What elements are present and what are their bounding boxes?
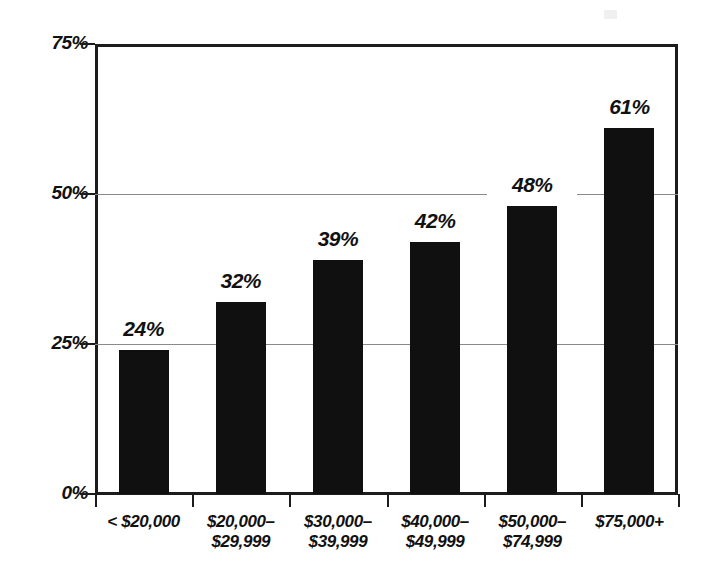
x-axis-category-label: < $20,000 (92, 512, 196, 532)
bar-40000-49999 (410, 242, 460, 494)
x-axis-category-label: $50,000– $74,999 (480, 512, 584, 552)
x-axis-tick (95, 494, 97, 507)
y-axis-tick-dash (80, 193, 95, 195)
y-axis-tick-dash (80, 493, 95, 495)
x-axis-tick (192, 494, 194, 507)
bar-value-label: 42% (390, 209, 480, 233)
x-axis-category-label: $40,000– $49,999 (383, 512, 487, 552)
y-axis-tick-label-25: 25% (26, 332, 88, 354)
bar-75000-plus (604, 128, 654, 494)
y-axis-tick-label-75: 75% (26, 32, 88, 54)
bar-value-label: 32% (196, 269, 286, 293)
bar-30000-39999 (313, 260, 363, 494)
x-axis-tick (387, 494, 389, 507)
bar-50000-74999 (507, 206, 557, 494)
x-axis-tick (289, 494, 291, 507)
x-axis-tick (484, 494, 486, 507)
bar-value-label: 48% (487, 173, 577, 197)
bar-lt-20000 (119, 350, 169, 494)
y-axis-tick-dash (80, 43, 95, 45)
x-axis-category-label: $75,000+ (577, 512, 681, 532)
x-axis-category-label: $30,000– $39,999 (286, 512, 390, 552)
bar-value-label: 61% (584, 95, 674, 119)
bar-chart-figure: 75% 50% 25% 0% 24% 32% 39% 42% 48% 61% <… (0, 0, 715, 587)
x-axis-tick (678, 494, 680, 507)
bar-value-label: 24% (99, 317, 189, 341)
x-axis-tick (581, 494, 583, 507)
bar-value-label: 39% (293, 227, 383, 251)
x-axis-category-label: $20,000– $29,999 (189, 512, 293, 552)
scan-artifact (604, 10, 617, 19)
y-axis-tick-label-0: 0% (26, 482, 88, 504)
y-axis-tick-dash (80, 343, 95, 345)
y-axis-tick-label-50: 50% (26, 182, 88, 204)
bar-20000-29999 (216, 302, 266, 494)
